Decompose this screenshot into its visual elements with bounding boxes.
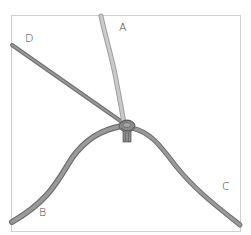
label-b: B: [39, 206, 46, 219]
label-c: C: [222, 180, 230, 193]
label-d: D: [25, 32, 33, 45]
label-a: A: [119, 21, 127, 34]
knot-diagram: [0, 0, 251, 235]
